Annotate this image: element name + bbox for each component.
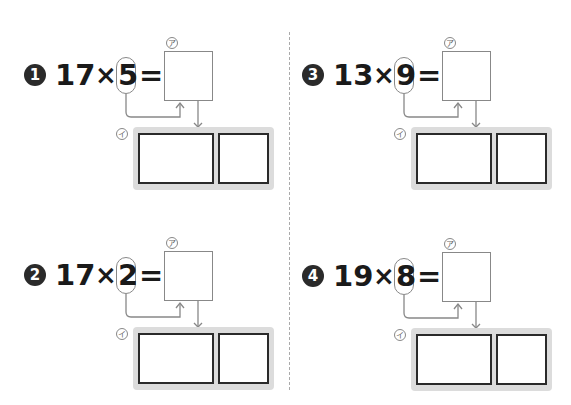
problem-4: 4 19 × 8 = ア イ [278,201,563,401]
label-i: イ [116,328,128,340]
problem-3: 3 13 × 9 = ア イ [278,0,563,200]
answer-box-i-left[interactable] [138,133,214,184]
label-i: イ [394,128,406,140]
answer-box-i-left[interactable] [416,133,492,184]
answer-box-i-left[interactable] [138,333,214,384]
answer-box-i-right[interactable] [496,334,547,385]
problem-2: 2 17 × 2 = ア イ [0,200,285,400]
answer-box-i-right[interactable] [218,333,269,384]
answer-box-i-left[interactable] [416,334,492,385]
answer-box-i-right[interactable] [496,133,547,184]
problem-1: 1 17 × 5 = ア イ [0,0,285,200]
label-i: イ [116,128,128,140]
label-i: イ [394,329,406,341]
answer-box-i-right[interactable] [218,133,269,184]
